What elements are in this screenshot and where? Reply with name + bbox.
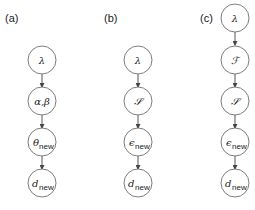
node-d-new: d new [124,169,152,197]
node-epsilon-new: ϵ new [124,128,152,156]
node-f: ℱ [221,46,249,74]
svg-text:new: new [232,142,247,151]
svg-text:new: new [39,183,54,192]
node-lambda: λ [124,46,152,74]
svg-text:d: d [128,178,134,189]
node-theta-new: θ new [28,128,56,156]
diagram-canvas: (a) λ α,β θ new d new (b) λ [0,0,255,210]
node-lambda: λ [221,4,249,32]
node-s: 𝒮 [124,87,152,115]
svg-text:new: new [135,142,150,151]
panel-label-a: (a) [5,12,18,24]
panel-a: (a) λ α,β θ new d new [5,12,56,197]
node-epsilon-new: ϵ new [221,128,249,156]
panel-c: (c) λ ℱ 𝒮 ϵ new d new [200,4,249,197]
svg-text:new: new [232,183,247,192]
node-lambda: λ [28,46,56,74]
svg-text:d: d [225,178,231,189]
panel-label-c: (c) [200,12,213,24]
node-d-new: d new [28,169,56,197]
panel-label-b: (b) [104,12,117,24]
svg-text:λ: λ [134,55,141,66]
node-alpha-beta: α,β [28,87,56,115]
svg-text:λ: λ [231,13,238,24]
node-s: 𝒮 [221,87,249,115]
svg-text:new: new [135,183,150,192]
svg-text:d: d [32,178,38,189]
svg-text:new: new [39,142,54,151]
node-d-new: d new [221,169,249,197]
panel-b: (b) λ 𝒮 ϵ new d new [104,12,152,197]
svg-text:α,β: α,β [34,96,50,107]
svg-text:λ: λ [38,55,45,66]
